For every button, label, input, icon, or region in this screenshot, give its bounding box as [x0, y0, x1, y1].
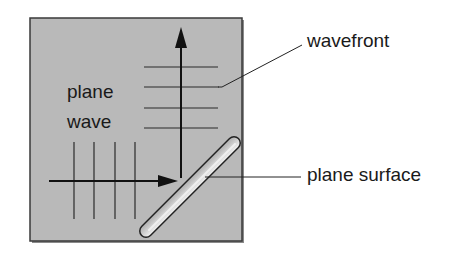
wavefront-label: wavefront	[306, 30, 390, 51]
plane-wave-label-line1: plane	[67, 81, 114, 102]
plane-wave-label-line2: wave	[66, 111, 111, 132]
diagram-canvas: plane wave wavefront plane surface	[0, 0, 466, 253]
plane-surface-label: plane surface	[307, 164, 421, 185]
diagram-panel	[30, 18, 244, 243]
